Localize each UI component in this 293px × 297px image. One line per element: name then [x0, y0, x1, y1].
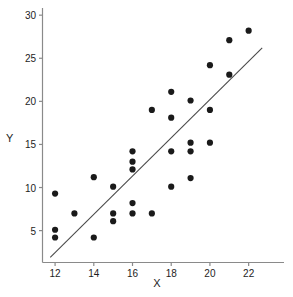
y-tick-label: 25 — [14, 53, 36, 64]
x-axis-title: X — [153, 277, 160, 289]
data-point — [226, 72, 232, 78]
y-tick-label: 5 — [14, 225, 36, 236]
axis-ticks — [39, 15, 249, 266]
data-point — [52, 190, 58, 196]
x-tick-label: 20 — [204, 268, 215, 279]
plot-canvas — [0, 0, 293, 297]
x-tick-label: 18 — [166, 268, 177, 279]
data-point — [110, 210, 116, 216]
data-point — [110, 184, 116, 190]
data-point — [149, 107, 155, 113]
data-point — [129, 148, 135, 154]
data-point — [168, 148, 174, 154]
axes — [43, 8, 285, 263]
data-point — [52, 234, 58, 240]
data-point — [91, 234, 97, 240]
data-point — [187, 175, 193, 181]
data-point — [129, 210, 135, 216]
y-tick-label: 10 — [14, 182, 36, 193]
y-tick-label: 30 — [14, 10, 36, 21]
x-tick-label: 22 — [243, 268, 254, 279]
data-point — [149, 210, 155, 216]
data-points — [52, 28, 252, 241]
data-point — [187, 97, 193, 103]
data-point — [207, 140, 213, 146]
data-point — [168, 115, 174, 121]
x-tick-label: 16 — [127, 268, 138, 279]
data-point — [168, 184, 174, 190]
data-point — [187, 140, 193, 146]
y-tick-label: 15 — [14, 139, 36, 150]
y-axis-title: Y — [6, 132, 13, 144]
y-tick-label: 20 — [14, 96, 36, 107]
data-point — [129, 166, 135, 172]
data-point — [52, 227, 58, 233]
data-point — [187, 148, 193, 154]
trend-line — [50, 48, 262, 257]
x-tick-label: 12 — [50, 268, 61, 279]
data-point — [168, 89, 174, 95]
data-point — [129, 159, 135, 165]
data-point — [71, 210, 77, 216]
data-point — [110, 218, 116, 224]
data-point — [129, 200, 135, 206]
regression-line — [50, 48, 262, 257]
data-point — [226, 37, 232, 43]
data-point — [207, 107, 213, 113]
x-tick-label: 14 — [88, 268, 99, 279]
data-point — [246, 28, 252, 34]
data-point — [91, 174, 97, 180]
data-point — [207, 62, 213, 68]
scatter-plot-figure: 51015202530 121416182022 Y X — [0, 0, 293, 297]
